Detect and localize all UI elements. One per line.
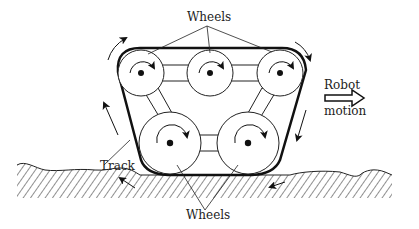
track-label: Track <box>100 160 135 173</box>
wheels-bottom-label: Wheels <box>186 209 230 222</box>
tracked-robot-diagram: Wheels Wheels Track Robot motion <box>0 0 419 229</box>
wheels <box>118 50 303 174</box>
wheels-top-label: Wheels <box>187 11 231 24</box>
robot-motion-label-line1: Robot <box>324 79 360 92</box>
robot-motion-label-line2: motion <box>324 105 366 118</box>
ground <box>17 163 392 198</box>
